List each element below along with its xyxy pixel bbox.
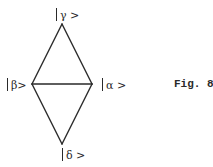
edge-left-bottom xyxy=(32,84,62,144)
node-label-gamma: γ > xyxy=(56,8,79,22)
edge-top-left xyxy=(32,24,62,84)
edge-right-bottom xyxy=(62,84,92,144)
figure-caption: Fig. 8 xyxy=(174,78,213,90)
ket-bar xyxy=(102,78,103,91)
ket-bar xyxy=(62,148,63,161)
edge-top-right xyxy=(62,24,92,84)
ket-bar xyxy=(56,8,57,21)
node-label-gamma-text: γ > xyxy=(60,9,79,22)
node-label-delta-text: δ > xyxy=(66,149,85,162)
node-label-delta: δ > xyxy=(62,148,85,162)
node-label-beta-text: β> xyxy=(11,79,27,92)
node-label-alpha: α > xyxy=(102,78,126,92)
node-label-beta: β> xyxy=(7,78,27,92)
ket-bar xyxy=(7,78,8,91)
node-label-alpha-text: α > xyxy=(106,79,126,92)
